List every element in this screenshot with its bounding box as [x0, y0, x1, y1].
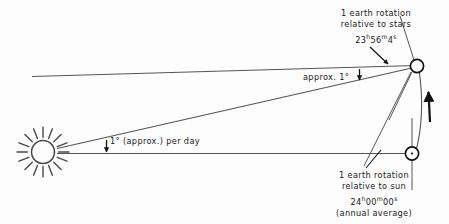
solar-seconds-unit: s	[394, 195, 397, 202]
daily-angle-label: 1° (approx.) per day	[110, 136, 200, 147]
solar-duration: 24h00m00s	[316, 193, 432, 208]
solar-minutes: 00	[366, 197, 377, 207]
solar-label-line4: (annual average)	[316, 208, 432, 219]
sidereal-rotation-label: 1 earth rotation relative to stars 23h56…	[321, 8, 431, 46]
orbit-arc	[415, 70, 422, 154]
sidereal-duration: 23h56m4s	[321, 31, 431, 46]
sidereal-minutes: 56	[370, 35, 381, 45]
sidereal-label-line1: 1 earth rotation	[321, 8, 431, 19]
solar-label-line1: 1 earth rotation	[316, 170, 432, 181]
sidereal-seconds-unit: s	[393, 33, 396, 40]
sidereal-hours: 23	[355, 35, 366, 45]
sidereal-leader-line	[370, 47, 388, 64]
sidereal-label-line2: relative to stars	[321, 19, 431, 30]
sun-icon	[17, 127, 69, 177]
orbit-direction-arrow	[429, 92, 431, 122]
approx-angle-label: approx. 1°	[303, 72, 349, 83]
solar-label-line2: relative to sun	[316, 181, 432, 192]
solar-hours: 24	[350, 197, 361, 207]
solar-rotation-label: 1 earth rotation relative to sun 24h00m0…	[316, 170, 432, 219]
solar-seconds: 00	[383, 197, 394, 207]
star-direction-line-upper	[32, 66, 416, 77]
solar-leader-line	[366, 150, 381, 168]
earth-rotation-diagram: 1 earth rotation relative to stars 23h56…	[0, 0, 449, 224]
